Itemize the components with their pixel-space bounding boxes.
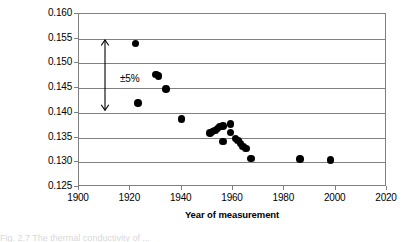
y-tick-label: 0.130 [30, 156, 72, 166]
x-tick-label: 1960 [210, 192, 254, 203]
data-point [242, 145, 250, 153]
x-tick-mark [181, 186, 182, 190]
x-tick-mark [386, 186, 387, 190]
data-point [155, 72, 163, 80]
x-tick-mark [283, 186, 284, 190]
error-range-arrow-icon [96, 39, 114, 111]
x-tick-mark [129, 186, 130, 190]
gridline [79, 88, 385, 89]
data-point [219, 122, 227, 130]
x-tick-mark [232, 186, 233, 190]
y-tick-label: 0.140 [30, 107, 72, 117]
data-point [132, 40, 140, 48]
x-tick-mark [78, 186, 79, 190]
x-tick-label: 1900 [56, 192, 100, 203]
data-point [247, 155, 255, 163]
y-tick-label: 0.135 [30, 132, 72, 142]
y-tick-label: 0.150 [30, 57, 72, 67]
data-point [178, 115, 186, 123]
y-tick-label: 0.160 [30, 8, 72, 18]
gridline [79, 162, 385, 163]
gridline [79, 113, 385, 114]
figure-caption: Fig. 2.7 The thermal conductivity of ... [0, 233, 410, 242]
data-point [134, 99, 142, 107]
gridline [79, 39, 385, 40]
gridline [79, 63, 385, 64]
error-range-label: ±5% [120, 73, 139, 84]
x-tick-label: 2020 [364, 192, 408, 203]
y-tick-label: 0.145 [30, 82, 72, 92]
data-point [227, 120, 235, 128]
y-tick-label: 0.155 [30, 33, 72, 43]
data-point [219, 138, 227, 146]
data-point [162, 85, 170, 93]
x-tick-label: 1980 [261, 192, 305, 203]
data-point [296, 155, 304, 163]
chart-figure: Thermal conductivity (W/mK) Year of meas… [0, 0, 410, 242]
data-point [327, 156, 335, 164]
y-tick-label: 0.125 [30, 181, 72, 191]
plot-area: ±5% [78, 13, 386, 186]
x-tick-label: 1940 [159, 192, 203, 203]
x-tick-label: 2000 [313, 192, 357, 203]
x-axis-title: Year of measurement [78, 209, 386, 220]
x-tick-label: 1920 [107, 192, 151, 203]
x-tick-mark [335, 186, 336, 190]
